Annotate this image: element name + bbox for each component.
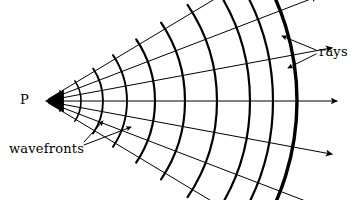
- point-source-label: P: [20, 93, 29, 106]
- wavefronts-label: wavefronts: [9, 142, 84, 155]
- wavefronts-group: [60, 0, 297, 200]
- leader-lines-group: [84, 36, 316, 145]
- rays-group: [48, 0, 337, 200]
- ray-line: [48, 103, 295, 200]
- leader-line-wavefronts: [84, 127, 131, 145]
- wavefront-arc: [215, 0, 250, 200]
- rays-label: rays: [319, 45, 348, 58]
- leader-line-rays: [282, 36, 316, 50]
- wavefront-arc: [234, 0, 273, 200]
- point-source-marker: [45, 90, 64, 113]
- source-wedge: [45, 90, 64, 113]
- wavefront-ray-diagram: P wavefronts rays: [0, 0, 359, 200]
- ray-line: [49, 102, 332, 154]
- ray-line: [48, 0, 295, 99]
- diagram-canvas: [0, 0, 359, 200]
- wavefront-arc-outer: [254, 0, 297, 200]
- ray-line: [49, 48, 332, 100]
